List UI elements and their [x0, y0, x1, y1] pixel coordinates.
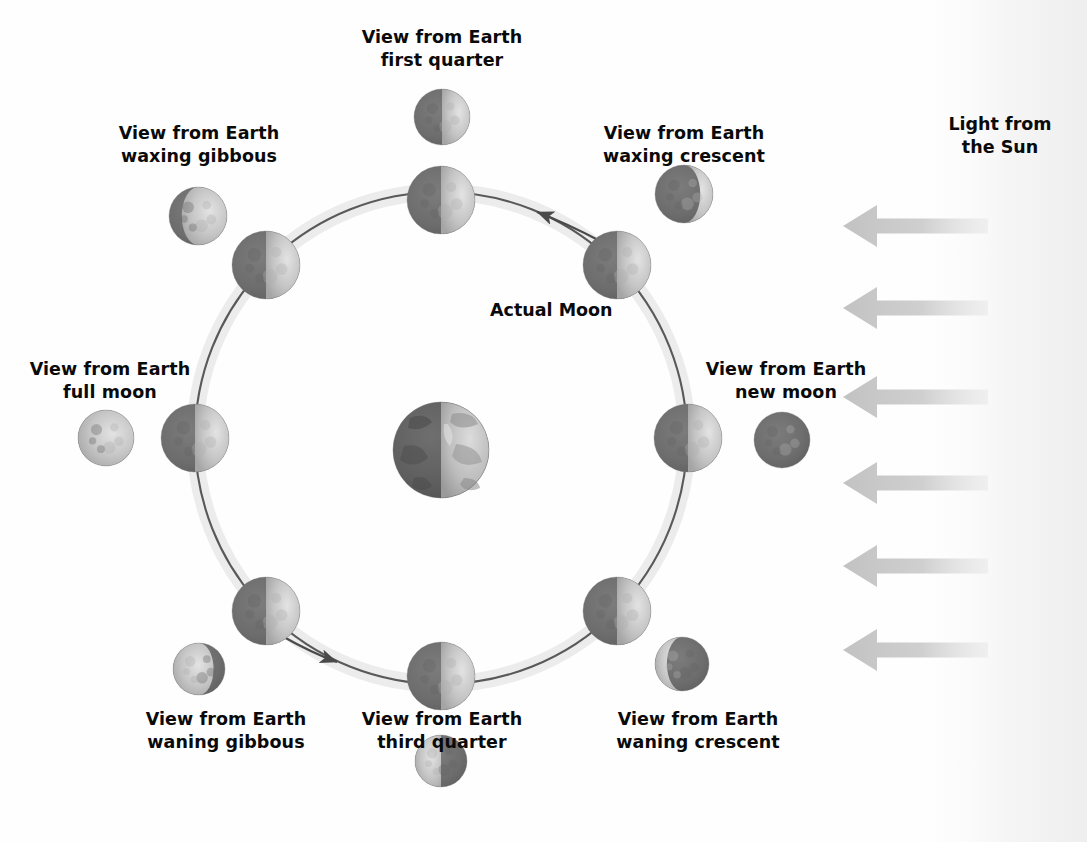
- actual-moon-full-moon: [161, 404, 229, 472]
- label-waxing-crescent: View from Earth waxing crescent: [572, 122, 796, 168]
- actual-moon-waxing-gibbous: [232, 231, 300, 299]
- label-waning-crescent: View from Earth waning crescent: [586, 708, 810, 754]
- label-light-from-sun: Light from the Sun: [930, 113, 1070, 159]
- actual-moon-waxing-crescent: [583, 231, 651, 299]
- actual-moon-new-moon: [654, 404, 722, 472]
- view-moon-waning-crescent: [655, 637, 709, 691]
- view-moon-waxing-crescent: [655, 165, 713, 223]
- label-first-quarter: View from Earth first quarter: [330, 26, 554, 72]
- actual-moon-first-quarter: [407, 166, 475, 234]
- view-moon-waning-gibbous: [173, 643, 225, 695]
- label-full-moon: View from Earth full moon: [20, 358, 200, 404]
- view-moon-new-moon: [754, 412, 810, 468]
- label-new-moon: View from Earth new moon: [692, 358, 880, 404]
- view-moon-first-quarter: [414, 89, 470, 145]
- label-third-quarter: View from Earth third quarter: [330, 708, 554, 754]
- actual-moon-waning-crescent: [583, 577, 651, 645]
- earth: [393, 402, 489, 498]
- view-moon-waxing-gibbous: [169, 187, 227, 245]
- moon-phase-diagram: View from Earth first quarter View from …: [0, 0, 1087, 842]
- actual-moon-third-quarter: [407, 642, 475, 710]
- actual-moon-waning-gibbous: [232, 577, 300, 645]
- label-actual-moon: Actual Moon: [490, 300, 613, 320]
- label-waxing-gibbous: View from Earth waxing gibbous: [87, 122, 311, 168]
- view-moon-full-moon: [78, 410, 134, 466]
- label-waning-gibbous: View from Earth waning gibbous: [114, 708, 338, 754]
